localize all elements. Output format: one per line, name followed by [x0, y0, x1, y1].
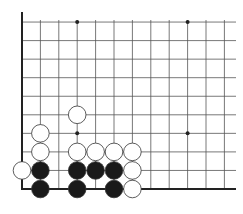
star-point: [186, 131, 190, 135]
white-stone: [68, 106, 86, 124]
black-stone: [32, 180, 50, 198]
white-stone: [87, 143, 105, 161]
white-stone: [13, 162, 31, 180]
white-stone: [32, 125, 50, 143]
go-board[interactable]: [0, 0, 243, 214]
white-stone: [32, 143, 50, 161]
black-stone: [68, 162, 86, 180]
black-stone: [68, 180, 86, 198]
black-stone: [87, 162, 105, 180]
star-point: [75, 131, 79, 135]
white-stone: [68, 143, 86, 161]
black-stone: [32, 162, 50, 180]
black-stone: [105, 180, 123, 198]
white-stone: [124, 180, 142, 198]
black-stone: [105, 162, 123, 180]
stones: [13, 106, 141, 198]
star-point: [186, 20, 190, 24]
white-stone: [124, 162, 142, 180]
white-stone: [124, 143, 142, 161]
white-stone: [105, 143, 123, 161]
star-point: [75, 20, 79, 24]
